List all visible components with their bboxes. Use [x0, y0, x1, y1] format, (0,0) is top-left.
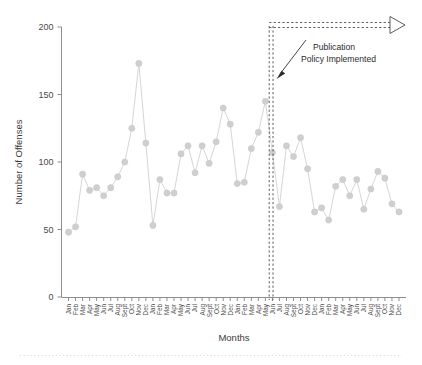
- data-point: [340, 176, 346, 182]
- data-point: [94, 185, 100, 191]
- x-tick-label: Jun: [353, 304, 360, 315]
- x-tick-label: Oct: [213, 304, 220, 314]
- data-point: [206, 160, 212, 166]
- data-point: [220, 105, 226, 111]
- series-line: [69, 63, 399, 232]
- data-point: [248, 145, 254, 151]
- x-tick-label: Mar: [248, 303, 255, 315]
- data-point: [171, 190, 177, 196]
- data-point: [143, 140, 149, 146]
- x-tick-label: Jun: [269, 304, 276, 315]
- data-point: [108, 185, 114, 191]
- policy-span-arrowhead: [390, 17, 405, 34]
- data-point: [283, 143, 289, 149]
- x-tick-label: Oct: [381, 304, 388, 314]
- data-point: [192, 170, 198, 176]
- data-point: [347, 193, 353, 199]
- x-tick-label: Jul: [107, 304, 114, 312]
- x-tick-label: Dec: [142, 303, 149, 315]
- x-tick-label: Oct: [128, 304, 135, 314]
- x-tick-label: Feb: [72, 304, 79, 315]
- data-point: [361, 206, 367, 212]
- data-point: [354, 176, 360, 182]
- y-tick-label: 50: [43, 225, 53, 235]
- x-tick-label: Feb: [241, 304, 248, 315]
- data-point: [213, 139, 219, 145]
- x-tick-label: Nov: [304, 303, 311, 315]
- x-tick-label: Feb: [325, 304, 332, 315]
- x-tick-label: Jan: [234, 304, 241, 315]
- x-tick-label: Jun: [184, 304, 191, 315]
- data-point: [304, 166, 310, 172]
- y-tick-label: 200: [38, 22, 53, 32]
- x-tick-label: Feb: [156, 304, 163, 315]
- data-point: [389, 201, 395, 207]
- x-axis-title: Months: [218, 332, 249, 343]
- x-tick-label: Mar: [79, 303, 86, 315]
- data-point: [129, 125, 135, 131]
- data-point: [150, 222, 156, 228]
- data-point: [178, 151, 184, 157]
- data-point: [199, 143, 205, 149]
- data-point: [157, 176, 163, 182]
- y-tick-label: 0: [48, 292, 53, 302]
- series-markers: [65, 60, 402, 235]
- x-tick-label: Mar: [163, 303, 170, 315]
- annotation-line-1: Publication: [313, 42, 355, 52]
- data-point: [101, 193, 107, 199]
- x-tick-label: Jul: [360, 304, 367, 312]
- data-point: [319, 205, 325, 211]
- data-point: [72, 224, 78, 230]
- data-point: [79, 171, 85, 177]
- x-tick-label: Nov: [220, 303, 227, 315]
- callout-arrowhead: [277, 71, 286, 79]
- data-point: [241, 179, 247, 185]
- data-point: [312, 209, 318, 215]
- data-point: [262, 98, 268, 104]
- data-point: [136, 60, 142, 66]
- data-point: [297, 135, 303, 141]
- data-point: [276, 203, 282, 209]
- data-series-offenses: [65, 60, 402, 235]
- data-point: [164, 190, 170, 196]
- data-point: [115, 174, 121, 180]
- data-point: [396, 209, 402, 215]
- data-point: [234, 181, 240, 187]
- x-tick-label: Dec: [395, 303, 402, 315]
- offenses-line-chart: 050100150200 JanFebMarAprMayJunJulAugSep…: [0, 0, 422, 365]
- x-tick-label: Dec: [311, 303, 318, 315]
- x-axis-tick-labels: JanFebMarAprMayJunJulAugSeptOctNovDecJan…: [65, 303, 402, 317]
- x-tick-label: Nov: [135, 303, 142, 315]
- data-point: [290, 154, 296, 160]
- x-tick-label: Jul: [191, 304, 198, 312]
- data-point: [122, 159, 128, 165]
- data-point: [368, 186, 374, 192]
- chart-figure: 050100150200 JanFebMarAprMayJunJulAugSep…: [0, 0, 422, 365]
- x-tick-label: Nov: [388, 303, 395, 315]
- y-tick-label: 100: [38, 157, 53, 167]
- data-point: [326, 217, 332, 223]
- y-axis-ticks: 050100150200: [38, 22, 61, 302]
- data-point: [333, 183, 339, 189]
- x-tick-label: Jul: [276, 304, 283, 312]
- x-tick-label: Jun: [100, 304, 107, 315]
- data-point: [227, 121, 233, 127]
- data-point: [87, 187, 93, 193]
- x-tick-label: Oct: [297, 304, 304, 314]
- data-point: [382, 175, 388, 181]
- x-tick-label: Dec: [227, 303, 234, 315]
- annotation-line-2: Policy Implemented: [301, 54, 376, 64]
- data-point: [255, 129, 261, 135]
- x-tick-label: Jan: [149, 304, 156, 315]
- x-tick-label: Jan: [65, 304, 72, 315]
- x-tick-label: Mar: [332, 303, 339, 315]
- axes-group: [62, 27, 407, 298]
- data-point: [375, 168, 381, 174]
- y-axis-title: Number of Offenses: [13, 119, 24, 204]
- x-tick-label: Jan: [318, 304, 325, 315]
- y-tick-label: 150: [38, 90, 53, 100]
- data-point: [269, 149, 275, 155]
- data-point: [65, 229, 71, 235]
- data-point: [185, 143, 191, 149]
